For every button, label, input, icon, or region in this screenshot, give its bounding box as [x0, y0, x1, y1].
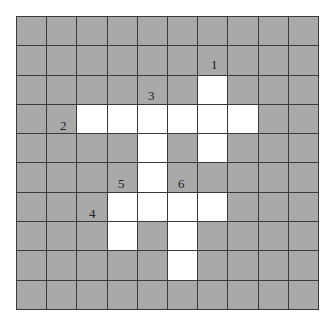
blocked-cell: [259, 76, 288, 104]
blocked-cell: [17, 134, 46, 162]
blocked-cell: [77, 134, 106, 162]
blocked-cell: [289, 105, 318, 133]
clue-number: 5: [118, 177, 125, 190]
blocked-cell: [108, 251, 137, 279]
blocked-cell: [108, 76, 137, 104]
blocked-cell: [259, 46, 288, 74]
clue-number: 1: [211, 58, 218, 71]
blocked-cell: [77, 222, 106, 250]
blocked-cell: [228, 281, 257, 309]
blocked-cell: [138, 222, 167, 250]
blocked-cell: [259, 251, 288, 279]
blocked-cell: [17, 163, 46, 191]
open-cell[interactable]: [138, 105, 167, 133]
blocked-cell: [228, 46, 257, 74]
open-cell[interactable]: [108, 193, 137, 221]
blocked-cell: [138, 17, 167, 45]
blocked-cell: [259, 163, 288, 191]
blocked-cell: [138, 251, 167, 279]
open-cell[interactable]: [138, 193, 167, 221]
clue-number: 6: [178, 177, 185, 190]
blocked-cell: [228, 193, 257, 221]
open-cell[interactable]: [138, 134, 167, 162]
open-cell[interactable]: [168, 193, 197, 221]
open-cell[interactable]: [198, 105, 227, 133]
blocked-cell: [168, 281, 197, 309]
blocked-cell: [228, 251, 257, 279]
open-cell[interactable]: [168, 222, 197, 250]
blocked-cell: [259, 281, 288, 309]
blocked-cell: [198, 281, 227, 309]
blocked-cell: [259, 134, 288, 162]
open-cell[interactable]: [168, 105, 197, 133]
blocked-cell: [228, 134, 257, 162]
blocked-cell: [198, 17, 227, 45]
blocked-cell: [259, 105, 288, 133]
blocked-cell: [47, 46, 76, 74]
blocked-cell: [77, 281, 106, 309]
clue-number: 4: [89, 207, 96, 220]
blocked-cell: [108, 281, 137, 309]
blocked-cell: [47, 281, 76, 309]
open-cell[interactable]: [228, 105, 257, 133]
blocked-cell: [108, 17, 137, 45]
blocked-cell: [138, 281, 167, 309]
blocked-cell: [289, 163, 318, 191]
blocked-cell: [198, 163, 227, 191]
blocked-cell: [289, 76, 318, 104]
open-cell[interactable]: [138, 163, 167, 191]
blocked-cell: [77, 46, 106, 74]
blocked-cell: [168, 46, 197, 74]
blocked-cell: [289, 222, 318, 250]
blocked-cell: [17, 193, 46, 221]
open-cell[interactable]: [198, 76, 227, 104]
blocked-cell: [289, 134, 318, 162]
blocked-cell: [228, 76, 257, 104]
blocked-cell: [17, 251, 46, 279]
clue-number: 2: [60, 119, 67, 132]
blocked-cell: [47, 163, 76, 191]
blocked-cell: [289, 46, 318, 74]
blocked-cell: [138, 46, 167, 74]
blocked-cell: [289, 193, 318, 221]
blocked-cell: [47, 134, 76, 162]
blocked-cell: [77, 251, 106, 279]
blocked-cell: [47, 193, 76, 221]
open-cell[interactable]: [168, 251, 197, 279]
blocked-cell: [17, 46, 46, 74]
blocked-cell: [17, 17, 46, 45]
crossword-grid: [16, 16, 319, 310]
blocked-cell: [289, 281, 318, 309]
blocked-cell: [47, 222, 76, 250]
open-cell[interactable]: [108, 222, 137, 250]
blocked-cell: [198, 222, 227, 250]
blocked-cell: [77, 163, 106, 191]
blocked-cell: [47, 251, 76, 279]
open-cell[interactable]: [77, 105, 106, 133]
blocked-cell: [168, 134, 197, 162]
blocked-cell: [289, 17, 318, 45]
open-cell[interactable]: [198, 193, 227, 221]
blocked-cell: [198, 251, 227, 279]
blocked-cell: [77, 17, 106, 45]
blocked-cell: [47, 76, 76, 104]
open-cell[interactable]: [108, 105, 137, 133]
blocked-cell: [289, 251, 318, 279]
blocked-cell: [17, 222, 46, 250]
open-cell[interactable]: [198, 134, 227, 162]
clue-number: 3: [148, 89, 155, 102]
blocked-cell: [259, 17, 288, 45]
blocked-cell: [168, 17, 197, 45]
blocked-cell: [259, 193, 288, 221]
blocked-cell: [228, 222, 257, 250]
blocked-cell: [17, 76, 46, 104]
blocked-cell: [228, 17, 257, 45]
blocked-cell: [47, 17, 76, 45]
blocked-cell: [168, 76, 197, 104]
blocked-cell: [17, 105, 46, 133]
blocked-cell: [77, 76, 106, 104]
blocked-cell: [17, 281, 46, 309]
blocked-cell: [228, 163, 257, 191]
blocked-cell: [259, 222, 288, 250]
blocked-cell: [108, 134, 137, 162]
